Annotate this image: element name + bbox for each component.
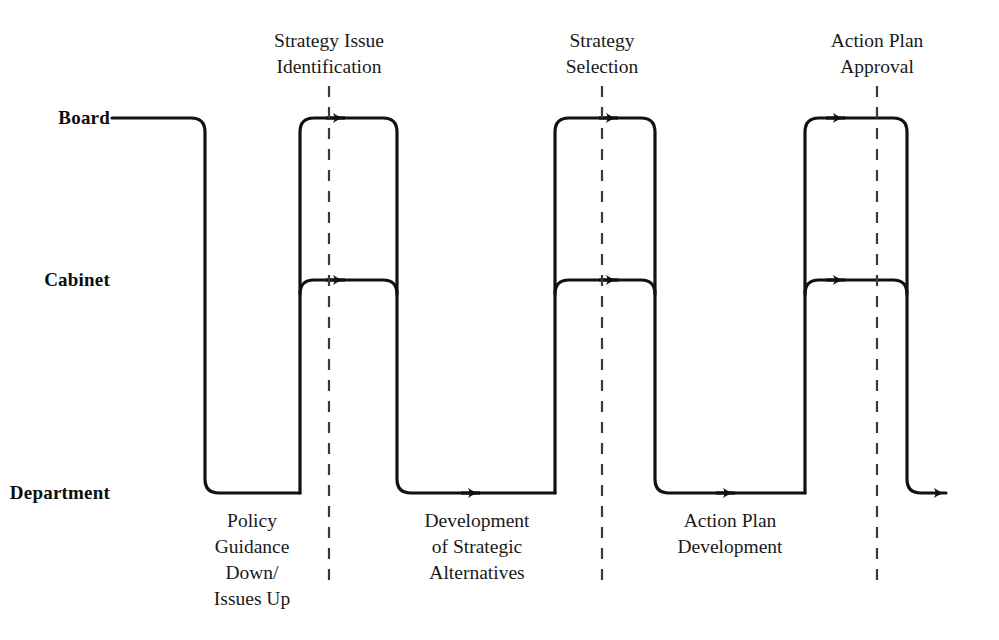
cabinet-crossbar-3 [805, 280, 907, 294]
lane-label-cabinet: Cabinet [44, 269, 110, 291]
arrowhead-group [326, 118, 845, 493]
lane-label-board: Board [58, 107, 110, 129]
segment-board-start-to-dept [112, 118, 300, 493]
cabinet-crossbar-1 [300, 280, 397, 294]
lane-label-department: Department [10, 482, 110, 504]
segment-pulse-3 [805, 118, 946, 493]
milestone-label-strategy-issue-identification: Strategy Issue Identification [274, 28, 384, 80]
flow-path-group [112, 118, 946, 493]
segment-pulse-2 [555, 118, 805, 493]
milestone-label-strategy-selection: Strategy Selection [566, 28, 639, 80]
activity-label-action-plan-development: Action Plan Development [677, 508, 782, 560]
diagram-canvas: Board Cabinet Department Strategy Issue … [0, 0, 999, 640]
activity-label-strategic-alternatives: Development of Strategic Alternatives [424, 508, 529, 586]
segment-pulse-1 [300, 118, 555, 493]
cabinet-crossbar-2 [555, 280, 655, 294]
activity-label-policy-guidance: Policy Guidance Down/ Issues Up [214, 508, 290, 612]
milestone-guide-group [329, 86, 877, 580]
milestone-label-action-plan-approval: Action Plan Approval [831, 28, 924, 80]
